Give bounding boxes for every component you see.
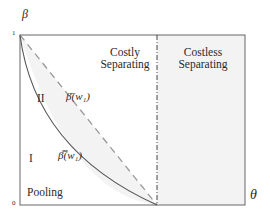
y-tick-1: 1 [12, 30, 16, 37]
region-I-label: I [29, 152, 33, 164]
beta-double-bar-curve-label: β̿(w₁) [58, 150, 82, 162]
costly-line2: Separating [90, 58, 160, 70]
costless-line2: Separating [163, 58, 243, 70]
region-II-label: II [37, 92, 45, 104]
pooling-label: Pooling [27, 186, 63, 198]
costly-separating-label: Costly Separating [90, 46, 160, 70]
costless-line1: Costless [163, 46, 243, 58]
beta-bar-curve-label: β̄(w₁) [66, 91, 90, 103]
diagram-canvas [0, 0, 270, 215]
y-axis-label: β [22, 8, 28, 21]
costless-separating-label: Costless Separating [163, 46, 243, 70]
y-tick-0: 0 [12, 200, 16, 207]
x-axis-label: θ [250, 188, 257, 203]
costly-line1: Costly [90, 46, 160, 58]
